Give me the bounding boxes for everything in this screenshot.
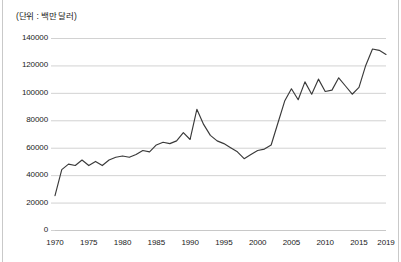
x-tick-label: 1990 xyxy=(173,238,207,247)
chart-figure: (단위 : 백만 달러) 140000120000100000800006000… xyxy=(0,0,401,262)
gridlines-group xyxy=(55,39,386,231)
x-tick-label: 2010 xyxy=(308,238,342,247)
y-tick-label: 120000 xyxy=(2,60,48,69)
y-tick-label: 0 xyxy=(2,225,48,234)
y-tick-label: 140000 xyxy=(2,33,48,42)
x-tick-label: 1975 xyxy=(72,238,106,247)
x-tick-label: 2000 xyxy=(241,238,275,247)
line-chart-plot xyxy=(0,0,401,262)
data-series-line xyxy=(55,49,386,196)
y-tick-marks-group xyxy=(51,39,55,231)
y-tick-label: 60000 xyxy=(2,143,48,152)
x-tick-label: 1970 xyxy=(38,238,72,247)
x-tick-label: 1980 xyxy=(106,238,140,247)
y-tick-label: 80000 xyxy=(2,115,48,124)
x-tick-label: 1985 xyxy=(139,238,173,247)
y-tick-label: 40000 xyxy=(2,170,48,179)
y-tick-label: 20000 xyxy=(2,198,48,207)
y-tick-label: 100000 xyxy=(2,88,48,97)
x-tick-label: 2005 xyxy=(274,238,308,247)
x-tick-label: 1995 xyxy=(207,238,241,247)
x-tick-label: 2019 xyxy=(369,238,401,247)
